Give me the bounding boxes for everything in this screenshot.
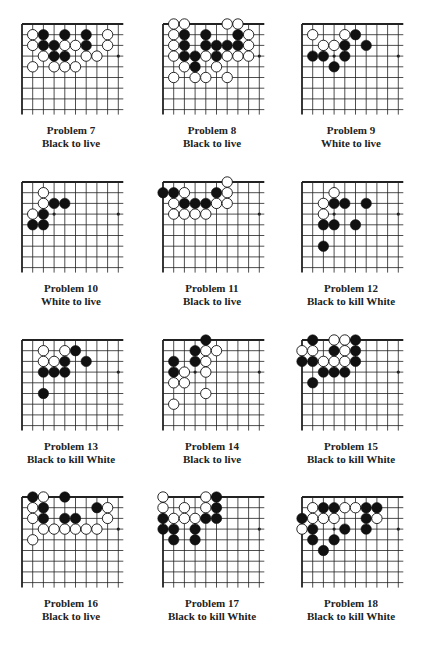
white-stone [329, 513, 339, 523]
white-stone [38, 198, 48, 208]
star-point [258, 55, 261, 58]
black-stone [38, 209, 48, 219]
white-stone [81, 524, 91, 534]
problem-task: Black to kill White [280, 610, 422, 623]
black-stone [38, 30, 48, 40]
black-stone [169, 524, 179, 534]
problem-task: Black to live [0, 610, 142, 623]
black-stone [361, 40, 371, 50]
white-stone [179, 62, 189, 72]
problem-16: Problem 16Black to live [0, 473, 142, 631]
black-stone [38, 388, 48, 398]
white-stone [28, 503, 38, 513]
black-stone [372, 503, 382, 513]
white-stone [179, 188, 189, 198]
black-stone [318, 545, 328, 555]
black-stone [92, 503, 102, 513]
problem-number: Problem 16 [0, 597, 142, 610]
black-stone [60, 30, 70, 40]
white-stone [297, 346, 307, 356]
star-point [258, 213, 261, 216]
black-stone [28, 220, 38, 230]
white-stone [211, 62, 221, 72]
problem-caption: Problem 12Black to kill White [280, 282, 422, 308]
black-stone [297, 356, 307, 366]
problem-number: Problem 11 [141, 282, 283, 295]
white-stone [102, 513, 112, 523]
black-stone [308, 335, 318, 345]
black-stone [169, 188, 179, 198]
star-point [117, 213, 120, 216]
problem-task: Black to live [141, 295, 283, 308]
black-stone [340, 51, 350, 61]
white-stone [158, 503, 168, 513]
white-stone [60, 62, 70, 72]
white-stone [102, 503, 112, 513]
black-stone [190, 51, 200, 61]
problem-12: Problem 12Black to kill White [280, 158, 422, 316]
go-board [280, 316, 422, 436]
black-stone [190, 535, 200, 545]
black-stone [60, 367, 70, 377]
white-stone [329, 188, 339, 198]
problem-caption: Problem 10White to live [0, 282, 142, 308]
white-stone [201, 388, 211, 398]
problem-caption: Problem 13Black to kill White [0, 440, 142, 466]
black-stone [60, 51, 70, 61]
white-stone [169, 19, 179, 29]
black-stone [38, 513, 48, 523]
white-stone [169, 30, 179, 40]
black-stone [308, 356, 318, 366]
problem-17: Problem 17Black to kill White [141, 473, 283, 631]
white-stone [318, 40, 328, 50]
problem-number: Problem 13 [0, 440, 142, 453]
black-stone [81, 356, 91, 366]
black-stone [201, 198, 211, 208]
white-stone [49, 524, 59, 534]
problem-task: Black to kill White [280, 295, 422, 308]
problem-9: Problem 9White to live [280, 0, 422, 158]
star-point [397, 55, 400, 58]
white-stone [233, 51, 243, 61]
white-stone [38, 356, 48, 366]
problem-task: Black to kill White [280, 453, 422, 466]
problem-8: Problem 8Black to live [141, 0, 283, 158]
black-stone [190, 524, 200, 534]
white-stone [297, 524, 307, 534]
white-stone [49, 62, 59, 72]
white-stone [169, 513, 179, 523]
white-stone [201, 367, 211, 377]
star-point [117, 528, 120, 531]
star-point [258, 528, 261, 531]
white-stone [60, 346, 70, 356]
problem-caption: Problem 17Black to kill White [141, 597, 283, 623]
white-stone [169, 72, 179, 82]
black-stone [329, 503, 339, 513]
white-stone [169, 378, 179, 388]
white-stone [70, 62, 80, 72]
black-stone [211, 51, 221, 61]
white-stone [201, 209, 211, 219]
white-stone [318, 209, 328, 219]
black-stone [361, 513, 371, 523]
star-point [258, 371, 261, 374]
white-stone [102, 40, 112, 50]
white-stone [158, 492, 168, 502]
black-stone [308, 535, 318, 545]
black-stone [308, 51, 318, 61]
white-stone [169, 51, 179, 61]
white-stone [70, 524, 80, 534]
black-stone [340, 367, 350, 377]
black-stone [318, 51, 328, 61]
problem-number: Problem 9 [280, 124, 422, 137]
white-stone [340, 356, 350, 366]
black-stone [350, 30, 360, 40]
black-stone [70, 513, 80, 523]
white-stone [318, 356, 328, 366]
white-stone [92, 524, 102, 534]
white-stone [28, 62, 38, 72]
black-stone [318, 503, 328, 513]
black-stone [28, 492, 38, 502]
black-stone [179, 40, 189, 50]
black-stone [340, 40, 350, 50]
